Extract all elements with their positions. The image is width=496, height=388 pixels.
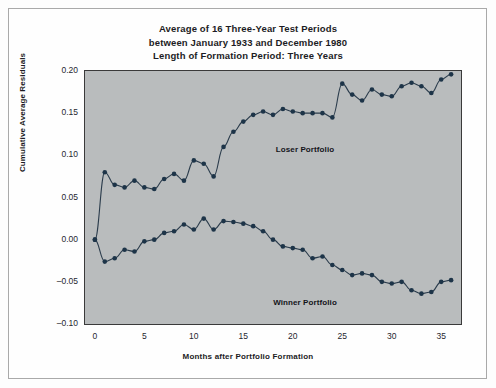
loser-data-point bbox=[192, 158, 197, 163]
loser-data-point bbox=[389, 94, 394, 99]
winner-data-point bbox=[300, 247, 305, 252]
winner-data-point bbox=[261, 229, 266, 234]
loser-data-point bbox=[102, 170, 107, 175]
loser-data-point bbox=[231, 129, 236, 134]
x-tick-label: 10 bbox=[179, 331, 209, 341]
winner-data-point bbox=[241, 221, 246, 226]
loser-data-point bbox=[300, 111, 305, 116]
loser-data-point bbox=[271, 113, 276, 118]
x-tick-label: 0 bbox=[80, 331, 110, 341]
figure-page: Average of 16 Three-Year Test Periods be… bbox=[0, 0, 496, 388]
winner-data-point bbox=[360, 271, 365, 276]
loser-portfolio-line bbox=[95, 74, 451, 239]
loser-data-point bbox=[360, 98, 365, 103]
loser-data-point bbox=[340, 81, 345, 86]
winner-data-point bbox=[251, 224, 256, 229]
winner-data-point bbox=[370, 273, 375, 278]
loser-data-point bbox=[290, 109, 295, 114]
y-axis-label: Cumulative Average Residuals bbox=[18, 23, 27, 203]
chart-title-line-3: Length of Formation Period: Three Years bbox=[0, 49, 496, 63]
winner-data-point bbox=[419, 291, 424, 296]
loser-data-point bbox=[142, 185, 147, 190]
winner-data-point bbox=[409, 288, 414, 293]
x-tick-label: 5 bbox=[129, 331, 159, 341]
winner-data-point bbox=[340, 268, 345, 273]
loser-data-point bbox=[182, 178, 187, 183]
winner-data-point bbox=[389, 281, 394, 286]
loser-data-point bbox=[211, 174, 216, 179]
winner-data-point bbox=[152, 237, 157, 242]
x-tick-label: 25 bbox=[327, 331, 357, 341]
chart-title-line-2: between January 1933 and December 1980 bbox=[0, 36, 496, 50]
loser-data-point bbox=[112, 183, 117, 188]
winner-data-point bbox=[449, 278, 454, 283]
y-tick-label: 0.10 bbox=[34, 149, 78, 159]
loser-data-point bbox=[449, 72, 454, 77]
y-tick-label: 0.15 bbox=[34, 107, 78, 117]
loser-data-point bbox=[152, 187, 157, 192]
plot-svg bbox=[85, 71, 461, 324]
chart-title-line-1: Average of 16 Three-Year Test Periods bbox=[0, 22, 496, 36]
origin-data-point bbox=[93, 237, 98, 242]
winner-data-point bbox=[172, 229, 177, 234]
loser-data-point bbox=[320, 111, 325, 116]
x-axis-label: Months after Portfolio Formation bbox=[0, 352, 496, 361]
loser-data-point bbox=[122, 185, 127, 190]
winner-data-point bbox=[399, 280, 404, 285]
x-tick-label: 35 bbox=[426, 331, 456, 341]
loser-data-point bbox=[251, 113, 256, 118]
winner-data-point bbox=[350, 273, 355, 278]
winner-data-point bbox=[290, 246, 295, 251]
loser-data-point bbox=[261, 109, 266, 114]
x-tick-label: 20 bbox=[278, 331, 308, 341]
winner-data-point bbox=[201, 216, 206, 221]
loser-data-point bbox=[439, 77, 444, 82]
series-label-loser: Loser Portfolio bbox=[276, 145, 334, 154]
loser-data-point bbox=[281, 107, 286, 112]
y-tick-label: 0.05 bbox=[34, 192, 78, 202]
winner-data-point bbox=[122, 247, 127, 252]
winner-data-point bbox=[211, 227, 216, 232]
loser-data-point bbox=[370, 87, 375, 92]
loser-data-point bbox=[310, 111, 315, 116]
winner-data-point bbox=[192, 227, 197, 232]
winner-data-point bbox=[429, 290, 434, 295]
loser-data-point bbox=[162, 177, 167, 182]
chart-title: Average of 16 Three-Year Test Periods be… bbox=[0, 22, 496, 63]
y-tick-label: 0.20 bbox=[34, 65, 78, 75]
x-tick-label: 15 bbox=[228, 331, 258, 341]
winner-data-point bbox=[231, 220, 236, 225]
loser-data-point bbox=[429, 91, 434, 96]
x-tick-label: 30 bbox=[377, 331, 407, 341]
winner-portfolio-line bbox=[95, 219, 451, 294]
winner-data-point bbox=[271, 237, 276, 242]
loser-data-point bbox=[380, 92, 385, 97]
winner-data-point bbox=[132, 249, 137, 254]
winner-data-point bbox=[310, 256, 315, 261]
loser-data-point bbox=[350, 92, 355, 97]
loser-data-point bbox=[419, 84, 424, 89]
winner-data-point bbox=[142, 239, 147, 244]
loser-data-point bbox=[330, 115, 335, 120]
winner-data-point bbox=[380, 280, 385, 285]
winner-data-point bbox=[112, 256, 117, 261]
y-tick-label: –0.10 bbox=[34, 318, 78, 328]
loser-data-point bbox=[201, 161, 206, 166]
winner-data-point bbox=[439, 280, 444, 285]
winner-data-point bbox=[281, 244, 286, 249]
loser-data-point bbox=[132, 178, 137, 183]
loser-data-point bbox=[409, 81, 414, 86]
winner-data-point bbox=[102, 259, 107, 264]
loser-data-point bbox=[172, 172, 177, 177]
winner-data-point bbox=[320, 254, 325, 259]
winner-data-point bbox=[182, 222, 187, 227]
series-label-winner: Winner Portfolio bbox=[273, 298, 337, 307]
loser-data-point bbox=[221, 145, 226, 150]
winner-data-point bbox=[221, 219, 226, 224]
y-tick-label: 0.00 bbox=[34, 234, 78, 244]
winner-data-point bbox=[330, 263, 335, 268]
loser-data-point bbox=[241, 119, 246, 124]
plot-area bbox=[84, 70, 462, 325]
y-tick-label: –0.05 bbox=[34, 276, 78, 286]
winner-data-point bbox=[162, 231, 167, 236]
